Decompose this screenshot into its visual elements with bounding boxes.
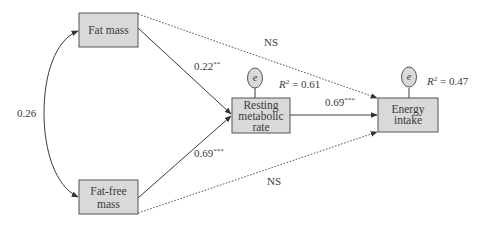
path-ffm-to-ei [138, 132, 377, 213]
node-fat-mass: Fat mass [79, 13, 138, 47]
node-energy-intake-label-line2: intake [394, 114, 422, 126]
node-rmr-label-line3: rate [252, 121, 269, 133]
error-term-energy-intake: e [402, 67, 417, 98]
covariance-arrow [44, 31, 78, 197]
error-symbol: e [407, 71, 412, 82]
node-fat-free-mass-label-line1: Fat-free [90, 185, 126, 197]
path-ffm-to-rmr-label: 0.69*** [194, 147, 224, 159]
path-fm-to-ei-label: NS [264, 36, 278, 48]
path-fm-to-rmr-label: 0.22** [194, 60, 221, 72]
node-resting-metabolic-rate: Resting metabolic rate [232, 98, 290, 133]
path-ffm-to-ei-label: NS [267, 175, 281, 187]
path-fm-to-rmr [138, 28, 231, 114]
error-symbol: e [253, 72, 258, 83]
covariance-value: 0.26 [17, 107, 37, 119]
path-diagram: 0.26 NS NS 0.22** 0.69*** 0.69*** Fat ma… [0, 0, 485, 226]
node-fat-free-mass-label-line2: mass [97, 198, 121, 210]
node-energy-intake: Energy intake [378, 98, 438, 132]
node-fat-free-mass: Fat-free mass [79, 180, 138, 214]
energy-intake-r-squared: R2 = 0.47 [426, 75, 469, 87]
rmr-r-squared: R2 = 0.61 [278, 78, 320, 90]
path-rmr-to-ei-label: 0.69*** [325, 96, 355, 108]
node-fat-mass-label: Fat mass [88, 24, 129, 36]
error-term-rmr: e [248, 68, 263, 98]
